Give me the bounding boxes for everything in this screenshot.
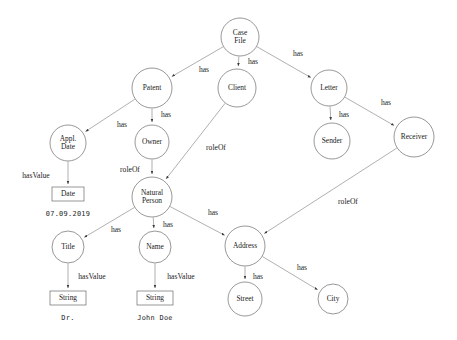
- node-city[interactable]: City: [318, 284, 348, 314]
- node-label-sender: Sender: [322, 136, 343, 145]
- edge-receiver-to-address: [264, 148, 396, 233]
- edge-address-to-city: [263, 257, 318, 290]
- edge-label-e_person_title: has: [111, 225, 121, 234]
- edge-case_file-to-patent: [172, 47, 223, 77]
- literal-lit_name_value: John Doe: [137, 314, 173, 322]
- edge-case_file-to-client: [238, 56, 239, 66]
- knowledge-graph-diagram: hashashashashashashashasValueroleOfroleO…: [0, 0, 457, 340]
- node-client[interactable]: Client: [218, 69, 256, 107]
- edge-label-e_appldate_date: hasValue: [22, 171, 50, 180]
- node-appl_date[interactable]: Appl.Date: [50, 125, 86, 161]
- graph-canvas: hashashashashashashashasValueroleOfroleO…: [0, 0, 457, 340]
- node-label-natural_person: Person: [142, 196, 162, 205]
- node-label-address: Address: [233, 241, 257, 250]
- node-case_file[interactable]: CaseFile: [221, 18, 259, 56]
- node-label-street: Street: [236, 294, 254, 303]
- node-letter[interactable]: Letter: [311, 70, 347, 106]
- literal-lit_date: 07.09.2019: [46, 210, 91, 218]
- node-string_title[interactable]: String: [50, 291, 86, 305]
- edge-label-e_letter_receiver: has: [381, 98, 391, 107]
- edge-label-e_address_city: has: [297, 263, 307, 272]
- node-label-patent: Patent: [143, 83, 162, 92]
- edge-label-e_address_street: has: [253, 272, 263, 281]
- node-natural_person[interactable]: NaturalPerson: [132, 177, 172, 217]
- node-label-string_name: String: [146, 293, 164, 302]
- edge-label-e_client_person: roleOf: [206, 143, 226, 152]
- nodes-layer: CaseFilePatentClientLetterAppl.DateOwner…: [50, 18, 434, 316]
- edge-label-e_casefile_client: has: [248, 57, 258, 66]
- edge-patent-to-appl_date: [86, 99, 135, 131]
- edge-label-e_casefile_patent: has: [199, 65, 209, 74]
- node-date_literal[interactable]: Date: [52, 187, 84, 201]
- edge-label-e_name_string: hasValue: [167, 272, 195, 281]
- node-label-appl_date: Date: [61, 142, 76, 151]
- edge-label-e_letter_sender: has: [339, 110, 349, 119]
- node-label-city: City: [327, 294, 340, 303]
- edge-label-e_patent_owner: has: [161, 110, 171, 119]
- node-patent[interactable]: Patent: [132, 68, 172, 108]
- edge-letter-to-sender: [330, 106, 331, 120]
- edge-label-e_person_address: has: [208, 208, 218, 217]
- node-label-name: Name: [146, 242, 164, 251]
- node-receiver[interactable]: Receiver: [394, 117, 434, 157]
- node-label-receiver: Receiver: [401, 132, 428, 141]
- edge-label-e_person_name: has: [163, 220, 173, 229]
- node-label-title: Title: [61, 242, 75, 251]
- node-street[interactable]: Street: [228, 282, 262, 316]
- node-name[interactable]: Name: [139, 231, 171, 263]
- node-sender[interactable]: Sender: [314, 123, 350, 159]
- edge-label-e_receiver_address: roleOf: [338, 197, 358, 206]
- node-label-string_title: String: [59, 293, 77, 302]
- node-label-letter: Letter: [320, 83, 338, 92]
- edge-label-e_patent_appldate: has: [117, 120, 127, 129]
- node-owner[interactable]: Owner: [135, 125, 169, 159]
- node-string_name[interactable]: String: [137, 291, 173, 305]
- edge-label-e_casefile_letter: has: [293, 49, 303, 58]
- edge-label-e_owner_person: roleOf: [120, 165, 140, 174]
- edge-natural_person-to-name: [153, 217, 154, 228]
- node-label-case_file: File: [234, 36, 246, 45]
- node-title[interactable]: Title: [52, 231, 84, 263]
- node-label-client: Client: [228, 83, 247, 92]
- node-label-owner: Owner: [142, 137, 163, 146]
- edge-label-e_title_string: hasValue: [78, 272, 106, 281]
- node-address[interactable]: Address: [225, 226, 265, 266]
- literal-lit_title_value: Dr.: [61, 314, 74, 322]
- edge-client-to-natural_person: [166, 103, 225, 178]
- edge-natural_person-to-title: [84, 207, 134, 237]
- node-label-date_literal: Date: [61, 189, 76, 198]
